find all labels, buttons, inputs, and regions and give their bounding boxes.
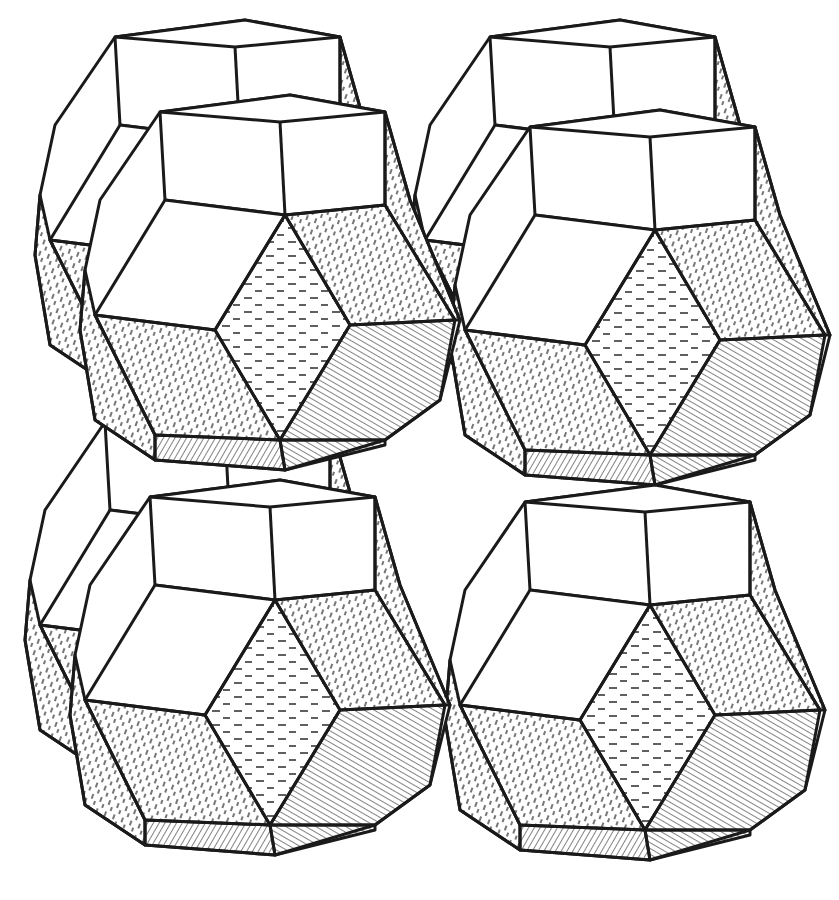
polyhedra-packing-illustration (0, 0, 839, 900)
polyhedra-drawing (0, 0, 839, 900)
cell-front-top-left (80, 95, 460, 470)
cell-front-bottom-left (70, 480, 450, 855)
cell-front-bottom-right (445, 485, 825, 860)
cell-front-top-right (450, 110, 830, 485)
